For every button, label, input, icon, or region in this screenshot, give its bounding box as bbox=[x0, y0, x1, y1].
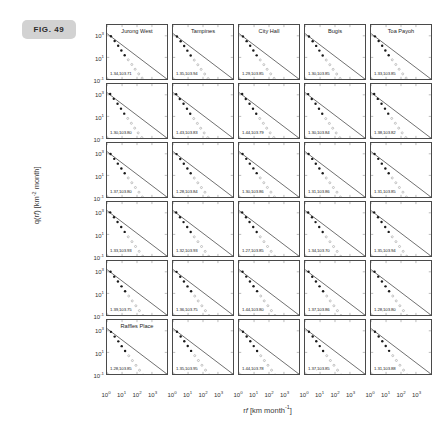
chart-panel[interactable]: Jurong West1.34,103.71 bbox=[106, 24, 168, 80]
y-tick-label: 101 bbox=[95, 113, 104, 121]
x-tick-label: 102 bbox=[264, 390, 273, 398]
panel-coordinates: 1.33,103.85 bbox=[374, 71, 396, 76]
x-tick-label: 101 bbox=[117, 390, 126, 398]
panel-coordinates: 1.44,103.78 bbox=[242, 366, 264, 371]
panel-coordinates: 1.44,103.80 bbox=[242, 307, 264, 312]
chart-panel[interactable]: Toa Payoh1.33,103.85 bbox=[370, 24, 432, 80]
y-tick-label: 103 bbox=[95, 149, 104, 157]
chart-panel[interactable]: 1.44,103.78 bbox=[238, 319, 300, 375]
x-tick-group: 100101102103 bbox=[172, 390, 234, 402]
x-tick-label: 103 bbox=[280, 390, 289, 398]
panel-coordinates: 1.28,103.84 bbox=[176, 189, 198, 194]
x-tick-label: 100 bbox=[101, 390, 110, 398]
y-axis-label: q(rf) [km-2 month] bbox=[31, 115, 42, 275]
panel-coordinates: 1.28,103.85 bbox=[110, 366, 132, 371]
y-tick-label: 103 bbox=[95, 31, 104, 39]
x-tick-group: 100101102103 bbox=[238, 390, 300, 402]
chart-panel[interactable]: 1.33,103.93 bbox=[106, 201, 168, 257]
y-tick-label: 103 bbox=[95, 208, 104, 216]
chart-panel[interactable]: 1.30,103.80 bbox=[106, 83, 168, 139]
x-tick-label: 101 bbox=[315, 390, 324, 398]
panel-coordinates: 1.35,103.95 bbox=[176, 366, 198, 371]
panel-coordinates: 1.37,103.86 bbox=[308, 307, 330, 312]
panel-title: City Hall bbox=[259, 28, 280, 34]
x-tick-group: 100101102103 bbox=[304, 390, 366, 402]
y-tick-label: 101 bbox=[95, 172, 104, 180]
panel-title: Tampines bbox=[191, 28, 215, 34]
y-tick-label: 101 bbox=[95, 231, 104, 239]
panel-coordinates: 1.35,103.94 bbox=[374, 248, 396, 253]
panel-coordinates: 1.34,103.70 bbox=[308, 248, 330, 253]
x-tick-group: 100101102103 bbox=[106, 390, 168, 402]
y-tick-group: 10310110-1 bbox=[78, 24, 104, 80]
panel-title: Raffles Place bbox=[121, 323, 154, 329]
y-tick-label: 101 bbox=[95, 349, 104, 357]
chart-panel[interactable]: 1.30,103.86 bbox=[238, 142, 300, 198]
y-tick-group: 10310110-1 bbox=[78, 201, 104, 257]
chart-panel[interactable]: 1.38,103.82 bbox=[370, 83, 432, 139]
x-tick-label: 100 bbox=[233, 390, 242, 398]
chart-panel[interactable]: 1.37,103.85 bbox=[304, 319, 366, 375]
chart-panel[interactable]: 1.39,103.75 bbox=[106, 260, 168, 316]
panel-coordinates: 1.28,103.80 bbox=[374, 307, 396, 312]
chart-panel[interactable]: 1.44,103.79 bbox=[238, 83, 300, 139]
y-tick-label: 10-1 bbox=[93, 371, 104, 379]
chart-panel[interactable]: 1.30,103.84 bbox=[304, 83, 366, 139]
panel-grid: Jurong West1.34,103.71Tampines1.35,103.9… bbox=[106, 24, 432, 375]
y-tick-label: 103 bbox=[95, 326, 104, 334]
y-tick-group: 10310110-1 bbox=[78, 142, 104, 198]
panel-coordinates: 1.31,103.86 bbox=[308, 189, 330, 194]
x-tick-label: 103 bbox=[148, 390, 157, 398]
x-axis-label: rf [km month-1] bbox=[95, 404, 439, 415]
chart-panel[interactable]: 1.28,103.80 bbox=[370, 260, 432, 316]
chart-panel[interactable]: Raffles Place1.28,103.85 bbox=[106, 319, 168, 375]
x-tick-label: 102 bbox=[396, 390, 405, 398]
panel-coordinates: 1.38,103.82 bbox=[374, 130, 396, 135]
panel-coordinates: 1.29,103.85 bbox=[242, 71, 264, 76]
y-tick-group: 10310110-1 bbox=[78, 83, 104, 139]
x-tick-label: 100 bbox=[167, 390, 176, 398]
panel-coordinates: 1.30,103.86 bbox=[242, 189, 264, 194]
chart-panel[interactable]: 1.37,103.86 bbox=[304, 260, 366, 316]
chart-panel[interactable]: 1.44,103.80 bbox=[238, 260, 300, 316]
chart-panel[interactable]: City Hall1.29,103.85 bbox=[238, 24, 300, 80]
x-tick-label: 103 bbox=[214, 390, 223, 398]
y-tick-group: 10310110-1 bbox=[78, 260, 104, 316]
y-tick-label: 103 bbox=[95, 90, 104, 98]
panel-coordinates: 1.31,103.88 bbox=[374, 366, 396, 371]
panel-title: Bugis bbox=[328, 28, 342, 34]
x-tick-label: 101 bbox=[249, 390, 258, 398]
panel-coordinates: 1.35,103.94 bbox=[176, 71, 198, 76]
panel-coordinates: 1.30,103.85 bbox=[308, 71, 330, 76]
x-tick-label: 101 bbox=[381, 390, 390, 398]
chart-panel[interactable]: 1.31,103.86 bbox=[304, 142, 366, 198]
y-tick-label: 103 bbox=[95, 267, 104, 275]
chart-panel[interactable]: 1.31,103.88 bbox=[370, 319, 432, 375]
chart-panel[interactable]: 1.37,103.80 bbox=[106, 142, 168, 198]
panel-coordinates: 1.32,103.93 bbox=[176, 248, 198, 253]
x-tick-label: 101 bbox=[183, 390, 192, 398]
x-tick-label: 100 bbox=[299, 390, 308, 398]
panel-coordinates: 1.37,103.85 bbox=[308, 366, 330, 371]
chart-panel[interactable]: 1.35,103.94 bbox=[370, 201, 432, 257]
panel-title: Toa Payoh bbox=[388, 28, 414, 34]
panel-coordinates: 1.36,103.75 bbox=[176, 307, 198, 312]
chart-panel[interactable]: 1.32,103.93 bbox=[172, 201, 234, 257]
x-tick-label: 103 bbox=[412, 390, 421, 398]
panel-coordinates: 1.37,103.80 bbox=[110, 189, 132, 194]
chart-panel[interactable]: 1.43,103.83 bbox=[172, 83, 234, 139]
chart-panel[interactable]: 1.36,103.75 bbox=[172, 260, 234, 316]
chart-panel[interactable]: 1.31,103.85 bbox=[370, 142, 432, 198]
panel-coordinates: 1.33,103.93 bbox=[110, 248, 132, 253]
chart-panel[interactable]: 1.27,103.85 bbox=[238, 201, 300, 257]
panel-coordinates: 1.34,103.71 bbox=[110, 71, 132, 76]
chart-panel[interactable]: 1.34,103.70 bbox=[304, 201, 366, 257]
panel-coordinates: 1.39,103.75 bbox=[110, 307, 132, 312]
chart-panel[interactable]: Tampines1.35,103.94 bbox=[172, 24, 234, 80]
panel-coordinates: 1.27,103.85 bbox=[242, 248, 264, 253]
panel-coordinates: 1.31,103.85 bbox=[374, 189, 396, 194]
chart-panel[interactable]: Bugis1.30,103.85 bbox=[304, 24, 366, 80]
chart-panel[interactable]: 1.35,103.95 bbox=[172, 319, 234, 375]
chart-panel[interactable]: 1.28,103.84 bbox=[172, 142, 234, 198]
panel-coordinates: 1.30,103.84 bbox=[308, 130, 330, 135]
